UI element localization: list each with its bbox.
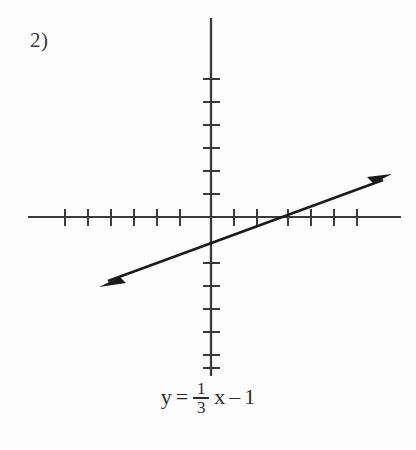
equation-variable: x: [214, 386, 225, 408]
equation-equals-sign: =: [176, 386, 188, 408]
equation-fraction: 1 3: [193, 379, 209, 417]
equation-label: y = 1 3 x – 1: [0, 378, 416, 416]
equation-constant: 1: [244, 386, 255, 408]
fraction-numerator: 1: [195, 380, 208, 397]
equation-lhs: y: [161, 386, 172, 408]
worksheet-page: 2): [0, 0, 416, 450]
fraction-denominator: 3: [195, 399, 208, 416]
plotted-line: [108, 180, 383, 281]
line-arrowhead-right: [364, 174, 392, 188]
line-arrowhead-left: [99, 272, 130, 287]
equation-minus-sign: –: [229, 386, 240, 408]
